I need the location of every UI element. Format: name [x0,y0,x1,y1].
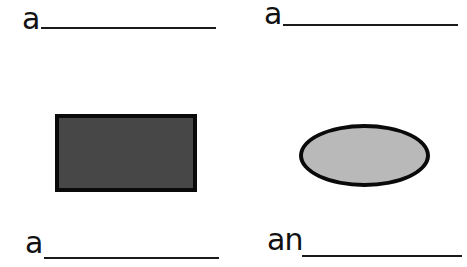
article-label-top-right: a [264,0,281,29]
answer-line-top-right[interactable] [283,24,458,26]
answer-line-bottom-left[interactable] [44,257,219,259]
answer-line-bottom-right[interactable] [302,255,462,257]
answer-line-top-left[interactable] [41,27,216,29]
oval-shape [299,124,430,187]
article-label-top-left: a [22,4,39,34]
article-label-bottom-right: an [267,225,302,255]
rectangle-shape [55,114,197,192]
article-label-bottom-left: a [25,228,42,258]
